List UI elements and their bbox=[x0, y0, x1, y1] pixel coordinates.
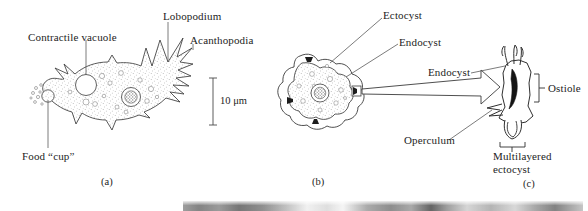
ostiole-detail-drawing bbox=[449, 45, 545, 152]
label-endocyst-c: Endocyst bbox=[428, 66, 470, 78]
ostiole-b bbox=[352, 86, 361, 96]
bottom-photo-strip bbox=[183, 201, 583, 211]
leader-endocyst-b bbox=[346, 44, 398, 77]
label-ectocyst: Ectocyst bbox=[383, 9, 422, 21]
scale-bar-label: 10 μm bbox=[220, 95, 247, 106]
label-lobopodium: Lobopodium bbox=[163, 10, 221, 22]
contractile-vacuole-shape bbox=[76, 75, 97, 96]
leader-ectocyst bbox=[330, 18, 382, 63]
leader-operculum bbox=[449, 110, 492, 140]
scale-bar bbox=[209, 78, 217, 125]
bracket-ostiole bbox=[534, 74, 545, 102]
label-endocyst-b: Endocyst bbox=[399, 36, 441, 48]
label-ostiole: Ostiole bbox=[548, 82, 581, 94]
label-operculum: Operculum bbox=[404, 134, 455, 146]
panel-letter-c: (c) bbox=[523, 178, 535, 189]
leader-endocyst-c bbox=[471, 66, 505, 73]
panel-letter-b: (b) bbox=[312, 176, 324, 187]
nucleus-shape bbox=[125, 91, 137, 103]
label-acanthopodia: Acanthopodia bbox=[190, 34, 254, 46]
label-food-cup: Food “cup” bbox=[22, 150, 75, 162]
label-contractile-vacuole: Contractile vacuole bbox=[28, 31, 117, 43]
label-multilayered-ectocyst: Multilayered ectocyst bbox=[493, 150, 571, 175]
figure-amoeba-cyst: Contractile vacuole Lobopodium Acanthopo… bbox=[0, 0, 588, 211]
photo-strip-fade bbox=[183, 201, 583, 211]
panel-letter-a: (a) bbox=[101, 176, 113, 187]
